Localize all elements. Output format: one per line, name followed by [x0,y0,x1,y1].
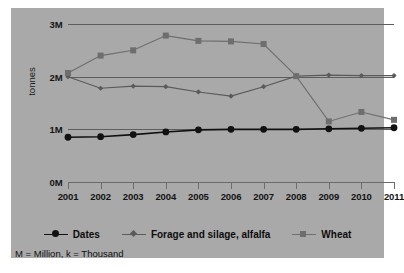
data-point-marker [162,129,169,136]
data-point-marker [98,86,103,91]
x-axis-tick [68,182,69,189]
legend-key-marker [52,230,59,237]
data-point-marker [391,124,398,131]
data-point-marker [228,38,234,44]
x-axis-tick-label: 2009 [318,191,339,202]
data-point-marker [358,109,364,115]
x-axis-tick-label: 2004 [155,191,176,202]
x-axis-tick-label: 2010 [351,191,372,202]
data-point-marker [196,89,201,94]
x-axis-tick-label: 2007 [253,191,274,202]
x-axis-tick-label: 2006 [221,191,242,202]
x-axis-tick [198,182,199,189]
data-point-marker [131,84,136,89]
legend-label: Wheat [321,229,351,240]
series-forage-and-silage-alfalfa [65,72,396,98]
data-point-marker [65,134,72,141]
data-point-marker [130,47,136,53]
series-line [68,75,394,96]
y-axis-tick-labels: 0M1M2M3M [29,24,63,182]
data-point-marker [359,73,364,78]
legend-marker-circle-icon [44,229,68,239]
data-point-marker [391,73,396,78]
x-axis-tick-label: 2003 [123,191,144,202]
legend-item-wheat[interactable]: Wheat [292,229,351,240]
x-axis-ticks [68,182,394,190]
data-point-marker [65,70,71,76]
y-axis-tick-label: 3M [49,19,63,30]
legend-label: Dates [73,229,100,240]
data-point-marker [358,125,365,132]
data-point-marker [97,133,104,140]
x-axis-tick [296,182,297,189]
data-point-marker [163,84,168,89]
data-point-marker [326,72,331,77]
data-point-marker [293,73,299,79]
x-axis-tick-label: 2011 [384,191,404,202]
x-axis-tick [231,182,232,189]
data-point-marker [163,33,169,39]
legend-item-dates[interactable]: Dates [44,229,100,240]
series-layer [68,24,394,182]
y-axis-tick-label: 2M [49,71,63,82]
x-axis-tick [264,182,265,189]
legend-marker-square-icon [292,229,316,239]
data-point-marker [130,131,137,138]
x-axis-tick [394,182,395,189]
data-point-marker [195,126,202,133]
chart-footnote: M = Million, k = Thousand [15,248,124,259]
data-point-marker [391,117,397,123]
chart-panel: tonnes 0M1M2M3M 200120022003200420052006… [11,8,384,258]
x-axis-tick [101,182,102,189]
data-point-marker [260,126,267,133]
y-axis-tick-label: 0M [49,177,63,188]
x-axis-tick [166,182,167,189]
legend-label: Forage and silage, alfalfa [151,229,270,240]
data-point-marker [228,94,233,99]
data-point-marker [195,38,201,44]
legend-key-marker [130,230,137,237]
data-point-marker [261,84,266,89]
data-point-marker [261,41,267,47]
legend-item-forage-and-silage-alfalfa[interactable]: Forage and silage, alfalfa [122,229,270,240]
data-point-marker [98,53,104,59]
x-axis-tick [133,182,134,189]
series-line [68,36,394,122]
x-axis-tick-label: 2001 [58,191,79,202]
legend-marker-diamond-icon [122,229,146,239]
x-axis-tick-label: 2005 [188,191,209,202]
x-axis-tick-label: 2002 [90,191,111,202]
legend-key-marker [300,231,306,237]
data-point-marker [228,126,235,133]
x-axis-tick-labels: 2001200220032004200520062007200820092010… [68,191,394,205]
data-point-marker [325,125,332,132]
data-point-marker [293,126,300,133]
series-dates [65,124,398,140]
series-wheat [65,33,397,125]
x-axis-tick [361,182,362,189]
data-point-marker [326,118,332,124]
chart-legend: DatesForage and silage, alfalfaWheat [11,224,384,244]
y-axis-tick-label: 1M [49,124,63,135]
x-axis-tick [329,182,330,189]
x-axis-tick-label: 2008 [286,191,307,202]
